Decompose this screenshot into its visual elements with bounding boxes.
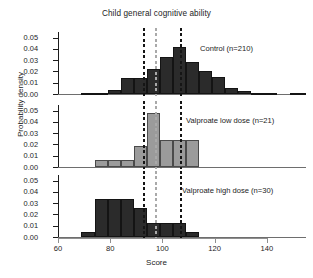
histogram-bar <box>186 232 199 237</box>
x-tick <box>162 238 163 243</box>
histogram-bar <box>147 223 160 237</box>
y-tick-label: 0.00 <box>0 91 38 98</box>
y-tick <box>53 214 58 215</box>
y-tick <box>53 38 58 39</box>
panel-label-control: Control (n=210) <box>200 44 253 53</box>
histogram-bar <box>186 62 199 94</box>
histogram-bar <box>147 69 160 94</box>
histogram-bar <box>108 90 121 94</box>
y-tick-label: 0.00 <box>0 164 38 171</box>
y-tick-label: 0.05 <box>0 107 38 114</box>
low-dose-mean-line <box>155 171 157 239</box>
y-tick <box>53 83 58 84</box>
histogram-bar <box>186 140 199 167</box>
histogram-bar <box>121 78 134 94</box>
x-tick <box>110 238 111 243</box>
plot-area-control: 0.000.010.020.030.040.05 <box>40 32 306 94</box>
y-tick-label: 0.02 <box>0 68 38 75</box>
x-tick-label: 60 <box>54 244 62 253</box>
high-dose-mean-line <box>180 171 182 239</box>
y-tick <box>53 133 58 134</box>
low-dose-mean-line <box>155 28 157 96</box>
x-axis: 6080100120140 <box>40 238 306 256</box>
plot-area-valproate-low-dose: 0.000.010.020.030.040.05 <box>40 105 306 167</box>
histogram-bar <box>95 160 108 167</box>
y-tick-label: 0.00 <box>0 234 38 241</box>
chart-title: Child general cognitive ability <box>0 9 313 18</box>
y-tick-label: 0.02 <box>0 141 38 148</box>
x-tick <box>58 238 59 243</box>
plot-area-valproate-high-dose: 0.000.010.020.030.040.05 <box>40 175 306 237</box>
x-tick-label: 120 <box>208 244 221 253</box>
histogram-bar <box>251 93 264 95</box>
y-tick <box>53 203 58 204</box>
y-axis-spine <box>58 105 59 167</box>
y-tick-label: 0.01 <box>0 79 38 86</box>
y-tick-label: 0.03 <box>0 200 38 207</box>
x-tick <box>215 238 216 243</box>
control-mean-line <box>143 101 145 169</box>
histogram-bar <box>238 91 251 94</box>
control-mean-line <box>143 171 145 239</box>
histogram-bar <box>160 140 173 167</box>
histogram-bar <box>121 199 134 237</box>
x-tick-label: 80 <box>106 244 114 253</box>
panel-valproate-high-dose: 0.000.010.020.030.040.05Valproate high d… <box>40 175 306 237</box>
histogram-bar <box>121 160 134 167</box>
histogram-bar <box>147 113 160 167</box>
y-tick <box>53 71 58 72</box>
y-tick-label: 0.05 <box>0 177 38 184</box>
y-tick <box>53 181 58 182</box>
x-tick-label: 100 <box>156 244 169 253</box>
x-tick <box>267 238 268 243</box>
histogram-bar <box>290 93 306 95</box>
y-tick-label: 0.04 <box>0 118 38 125</box>
y-tick-label: 0.03 <box>0 57 38 64</box>
y-tick <box>53 226 58 227</box>
y-tick <box>53 60 58 61</box>
histogram-bar <box>81 232 94 237</box>
y-tick <box>53 144 58 145</box>
y-axis-spine <box>58 32 59 94</box>
y-tick-label: 0.02 <box>0 211 38 218</box>
histogram-bar <box>95 199 108 237</box>
histogram-bar <box>160 223 173 237</box>
y-tick <box>53 49 58 50</box>
x-axis-label: Score <box>0 258 313 267</box>
control-mean-line <box>143 28 145 96</box>
histogram-bar <box>199 71 212 94</box>
y-tick-label: 0.04 <box>0 45 38 52</box>
chart-figure: Child general cognitive ability Probabil… <box>0 0 313 278</box>
y-tick <box>53 156 58 157</box>
high-dose-mean-line <box>180 28 182 96</box>
y-tick <box>53 111 58 112</box>
baseline <box>58 167 306 168</box>
histogram-bar <box>108 199 121 237</box>
histogram-bar <box>160 57 173 94</box>
y-tick-label: 0.01 <box>0 152 38 159</box>
x-tick-label: 140 <box>260 244 273 253</box>
panel-label-valproate-high-dose: Valproate high dose (n=30) <box>182 186 273 195</box>
panel-control: 0.000.010.020.030.040.05Control (n=210) <box>40 32 306 94</box>
low-dose-mean-line <box>155 101 157 169</box>
y-axis-spine <box>58 175 59 237</box>
y-tick-label: 0.03 <box>0 130 38 137</box>
panel-valproate-low-dose: 0.000.010.020.030.040.05Valproate low do… <box>40 105 306 167</box>
y-tick-label: 0.05 <box>0 34 38 41</box>
y-tick <box>53 122 58 123</box>
histogram-bar <box>81 93 94 95</box>
y-tick-label: 0.04 <box>0 188 38 195</box>
y-tick <box>53 192 58 193</box>
high-dose-mean-line <box>180 101 182 169</box>
histogram-bar <box>264 93 277 95</box>
histogram-bar <box>95 93 108 95</box>
histogram-bar <box>225 88 238 94</box>
y-tick-label: 0.01 <box>0 222 38 229</box>
histogram-bar <box>108 160 121 167</box>
histogram-bar <box>212 77 225 94</box>
panel-label-valproate-low-dose: Valproate low dose (n=21) <box>186 116 274 125</box>
